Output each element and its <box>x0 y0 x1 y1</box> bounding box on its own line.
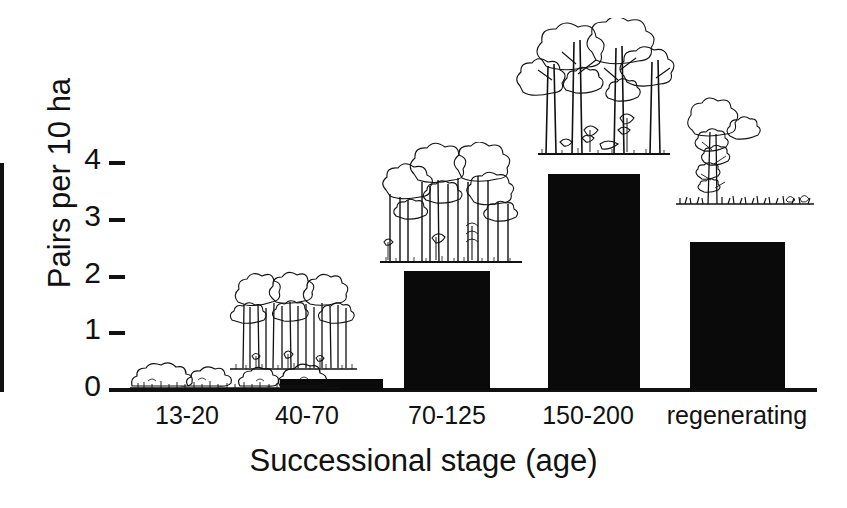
y-tick-label-4: 4 <box>61 144 101 174</box>
illustration-young-dense-sapling-forest <box>228 268 360 380</box>
y-tick-0: 0 <box>109 388 125 392</box>
y-tick-2: 2 <box>109 275 125 279</box>
y-tick-label-0: 0 <box>61 371 101 401</box>
bar-150-200[interactable] <box>548 174 640 390</box>
y-axis-line <box>0 163 4 392</box>
y-tick-label-2: 2 <box>61 258 101 288</box>
y-tick-label-3: 3 <box>61 201 101 231</box>
bar-regenerating[interactable] <box>690 242 785 390</box>
x-axis-title: Successional stage (age) <box>0 443 847 479</box>
figure-bar-chart: Pairs per 10 ha 4 3 2 1 0 <box>0 0 847 508</box>
illustration-single-isolated-tree-over-grass <box>668 92 818 217</box>
bar-70-125[interactable] <box>404 271 490 390</box>
y-tick-1: 1 <box>109 331 125 335</box>
y-tick-3: 3 <box>109 218 125 222</box>
y-tick-label-1: 1 <box>61 314 101 344</box>
illustration-tall-mature-old-growth-forest <box>512 18 680 176</box>
y-tick-4: 4 <box>109 161 125 165</box>
x-tick-label-regenerating: regenerating <box>627 400 847 430</box>
illustration-mid-height-closed-canopy-forest <box>370 142 530 274</box>
